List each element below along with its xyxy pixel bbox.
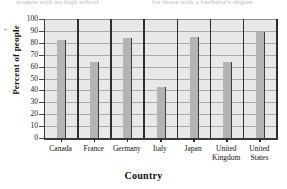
gridline (45, 55, 276, 56)
y-axis-tick-label: 40 (31, 87, 39, 95)
y-axis-tick (39, 67, 45, 68)
category-separator (143, 19, 145, 138)
y-axis-tick-label: 0 (34, 134, 38, 142)
x-axis-tick (259, 138, 261, 142)
y-axis-tick-label: 80 (31, 39, 39, 47)
cut-off-caption: women with no high school for those with… (0, 0, 287, 9)
y-axis-tick (39, 31, 45, 32)
x-axis-title: Country (0, 170, 287, 181)
bar (123, 38, 132, 138)
y-axis-tick (39, 19, 45, 20)
y-axis-tick (39, 126, 45, 127)
gridline (45, 19, 276, 20)
bar-chart-figure: women with no high school for those with… (0, 0, 287, 189)
plot-area: 0102030405060708090100 (44, 19, 276, 138)
y-axis-tick-label: 60 (31, 63, 39, 71)
bar (190, 37, 199, 138)
bar (256, 32, 265, 138)
x-axis-tick (193, 138, 195, 142)
category-separator (276, 19, 278, 138)
category-separator (77, 19, 79, 138)
x-axis-tick (61, 138, 63, 142)
gridline (45, 79, 276, 80)
x-axis-tick-label: United States (239, 144, 280, 162)
x-axis-tick (160, 138, 162, 142)
category-separator (243, 19, 245, 138)
y-axis-title: Percent of people (11, 20, 21, 100)
y-axis-tick-label: 10 (31, 122, 39, 130)
bar (57, 40, 66, 138)
caption-left-fragment: women with no high school (16, 0, 99, 6)
y-axis-tick (39, 55, 45, 56)
bar (157, 87, 166, 138)
category-separator (177, 19, 179, 138)
y-axis-tick-label: 70 (31, 51, 39, 59)
gridline (45, 67, 276, 68)
category-separator (110, 19, 112, 138)
y-axis-tick-label: 90 (31, 27, 39, 35)
bar (223, 62, 232, 138)
y-axis-tick (39, 43, 45, 44)
gridline (45, 31, 276, 32)
y-axis-tick (39, 114, 45, 115)
x-axis-tick (94, 138, 96, 142)
y-axis-tick (39, 79, 45, 80)
y-axis-tick-label: 30 (31, 99, 39, 107)
bar (90, 62, 99, 138)
y-axis-tick-label: 50 (31, 75, 39, 83)
x-axis-tick (127, 138, 129, 142)
y-axis-tick-label: 20 (31, 110, 39, 118)
y-axis-tick (39, 90, 45, 91)
plus-marker: + (3, 25, 8, 34)
x-axis-tick (226, 138, 228, 142)
category-separator (210, 19, 212, 138)
caption-right-fragment: for those with a bachelor's degree (152, 0, 253, 6)
y-axis-tick (39, 102, 45, 103)
gridline (45, 43, 276, 44)
y-axis-tick-label: 100 (27, 15, 38, 23)
